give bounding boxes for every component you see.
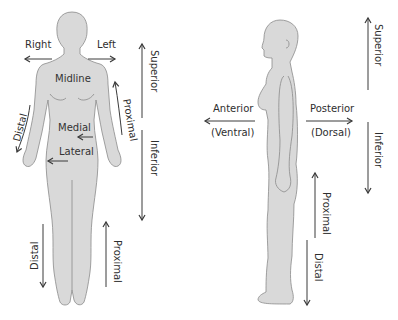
- label-distal-leg: Distal: [30, 241, 40, 270]
- label-inferior: Inferior: [149, 140, 159, 176]
- label-ventral: (Ventral): [211, 128, 254, 138]
- label-medial: Medial: [58, 123, 91, 133]
- label-right: Right: [25, 40, 51, 50]
- label-midline: Midline: [55, 74, 91, 84]
- label-left: Left: [97, 40, 116, 50]
- label-lateral: Lateral: [59, 147, 94, 157]
- label-superior: Superior: [149, 50, 159, 92]
- label-dorsal: (Dorsal): [311, 128, 351, 138]
- anatomy-diagram: [0, 0, 398, 320]
- proximal-arm-arrow: [115, 82, 122, 135]
- label-proximal-leg: Proximal: [112, 240, 122, 283]
- label-anterior: Anterior: [213, 104, 253, 114]
- label-side-distal-leg: Distal: [313, 253, 323, 282]
- label-posterior: Posterior: [310, 104, 354, 114]
- label-side-proximal-leg: Proximal: [321, 192, 331, 235]
- label-side-superior: Superior: [373, 24, 383, 66]
- side-body-figure: [258, 20, 298, 304]
- label-side-inferior: Inferior: [373, 132, 383, 168]
